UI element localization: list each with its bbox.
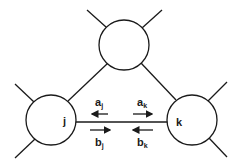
stub-top-right (142, 10, 162, 28)
label-a-k: ak (137, 96, 147, 109)
edge-top-k (141, 63, 176, 100)
stub-k-upper (208, 82, 227, 101)
node-j-label: j (62, 115, 66, 127)
label-a-j: aj (95, 96, 103, 110)
node-j (26, 95, 76, 145)
scattering-network-diagram: j k aj ak bj bk (0, 0, 242, 165)
stub-j-upper (15, 84, 34, 102)
label-b-j: bj (95, 136, 104, 150)
stub-top-left (87, 10, 106, 27)
edge-top-j (68, 63, 108, 101)
node-k-label: k (176, 116, 183, 128)
node-k (167, 95, 217, 145)
stub-j-lower (15, 139, 35, 158)
node-top (99, 20, 149, 70)
label-b-k: bk (137, 136, 148, 149)
stub-k-lower (209, 138, 227, 157)
